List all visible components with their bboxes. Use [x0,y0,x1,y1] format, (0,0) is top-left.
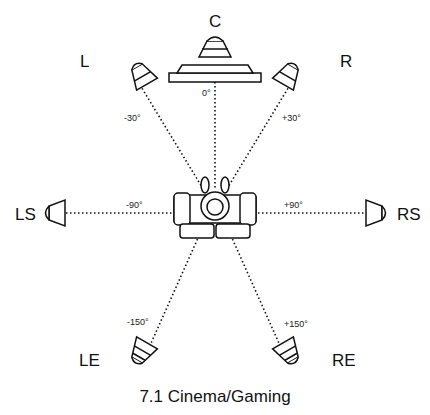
angle-label-rs: +90° [284,201,303,210]
center-speaker-icon [169,37,261,82]
angle-label-c: 0° [202,89,211,98]
right-speaker-icon [273,58,305,90]
angle-label-r: +30° [282,114,301,123]
right-surround-speaker-icon [366,200,386,226]
speaker-label-c: C [209,13,221,30]
speaker-label-ls: LS [15,206,36,223]
angle-label-re: +150° [284,320,308,329]
speaker-layout-diagram [0,0,430,415]
speaker-label-rs: RS [397,206,421,223]
angle-label-l: -30° [124,114,141,123]
left-surround-speaker-icon [46,200,66,226]
angle-label-le: -150° [127,318,149,327]
speaker-label-l: L [80,53,89,70]
speaker-label-re: RE [332,352,356,369]
left-speaker-icon [125,58,157,90]
diagram-title: 7.1 Cinema/Gaming [0,387,430,407]
speaker-label-r: R [340,53,352,70]
angle-label-ls: -90° [126,201,143,210]
speaker-label-le: LE [79,352,100,369]
